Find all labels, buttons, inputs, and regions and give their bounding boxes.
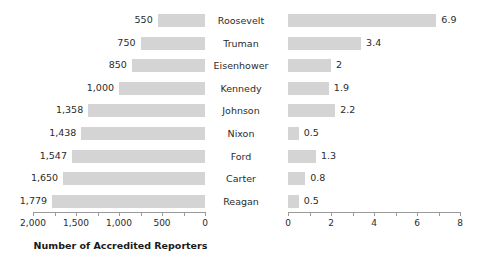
axis-tick-label: 4	[371, 218, 377, 228]
axis-tick	[205, 212, 206, 216]
bar-value-label: 550	[135, 13, 153, 26]
bar: 1,358	[88, 104, 205, 117]
bar-value-label: 1,547	[40, 149, 67, 162]
bar: 1,779	[52, 195, 205, 208]
axis-tick-label: 2,000	[20, 218, 46, 228]
bar-row: 850	[0, 59, 205, 72]
bar-row: 1.9	[288, 82, 460, 95]
chart-panel-press-conferences: 6.93.421.92.20.51.30.80.5 02468 Average …	[241, 0, 482, 268]
axis-tick	[184, 212, 185, 216]
bar-row: 2.2	[288, 104, 460, 117]
axis-tick	[460, 212, 461, 216]
axis-tick	[353, 212, 354, 216]
bar-row: 0.8	[288, 172, 460, 185]
bar-value-label: 1,438	[49, 126, 76, 139]
axis-tick	[55, 212, 56, 216]
bar-row: 1,779	[0, 195, 205, 208]
bar-value-label: 0.5	[304, 194, 319, 207]
bar-value-label: 1,779	[20, 194, 47, 207]
bar-row: 3.4	[288, 37, 460, 50]
axis-tick-label: 2	[328, 218, 334, 228]
axis-tick-label: 0	[202, 218, 208, 228]
axis-tick	[98, 212, 99, 216]
bar-row: 1,650	[0, 172, 205, 185]
bar: 6.9	[288, 14, 436, 27]
x-axis-right: 02468	[288, 212, 460, 213]
axis-tick-label: 500	[153, 218, 170, 228]
bar: 0.5	[288, 127, 299, 140]
bar: 1,000	[119, 82, 205, 95]
bar-row: 1,547	[0, 150, 205, 163]
bar-value-label: 0.8	[310, 171, 325, 184]
bar-row: 1,358	[0, 104, 205, 117]
bar-value-label: 6.9	[441, 13, 456, 26]
axis-tick-label: 1,500	[63, 218, 89, 228]
bar: 850	[132, 59, 205, 72]
bar-row: 0.5	[288, 195, 460, 208]
bar-row: 750	[0, 37, 205, 50]
bar-row: 0.5	[288, 127, 460, 140]
axis-tick	[331, 212, 332, 216]
bar-row: 1,000	[0, 82, 205, 95]
axis-tick	[439, 212, 440, 216]
axis-tick-label: 6	[414, 218, 420, 228]
axis-tick-label: 0	[285, 218, 291, 228]
bar-rows-right: 6.93.421.92.20.51.30.80.5	[241, 0, 482, 212]
axis-tick	[162, 212, 163, 216]
bar: 0.8	[288, 172, 305, 185]
bar-value-label: 0.5	[304, 126, 319, 139]
bar-value-label: 1,000	[87, 81, 114, 94]
axis-tick	[119, 212, 120, 216]
bar-row: 6.9	[288, 14, 460, 27]
bar: 3.4	[288, 37, 361, 50]
axis-tick	[374, 212, 375, 216]
bar-value-label: 2.2	[340, 103, 355, 116]
bar-row: 550	[0, 14, 205, 27]
bar-value-label: 3.4	[366, 36, 381, 49]
bar: 1,438	[81, 127, 205, 140]
bar-row: 1,438	[0, 127, 205, 140]
axis-tick-label: 8	[457, 218, 463, 228]
axis-tick	[76, 212, 77, 216]
bar: 1,547	[72, 150, 205, 163]
x-axis-left: 2,0001,5001,0005000	[33, 212, 205, 213]
bar-value-label: 1,650	[31, 171, 58, 184]
bar-row: 2	[288, 59, 460, 72]
bar: 550	[158, 14, 205, 27]
bar: 1,650	[63, 172, 205, 185]
axis-tick	[288, 212, 289, 216]
axis-title-left: Number of Accredited Reporters	[8, 240, 233, 252]
bar-value-label: 1.9	[334, 81, 349, 94]
bar: 0.5	[288, 195, 299, 208]
bar-value-label: 1.3	[321, 149, 336, 162]
bar-value-label: 2	[336, 58, 342, 71]
axis-tick-label: 1,000	[106, 218, 132, 228]
bar-value-label: 1,358	[56, 103, 83, 116]
bar: 750	[141, 37, 206, 50]
bar: 1.9	[288, 82, 329, 95]
axis-tick	[396, 212, 397, 216]
axis-tick	[33, 212, 34, 216]
bar: 2	[288, 59, 331, 72]
bar-value-label: 750	[117, 36, 135, 49]
bar-row: 1.3	[288, 150, 460, 163]
chart-figure: 5507508501,0001,3581,4381,5471,6501,779 …	[0, 0, 482, 268]
axis-tick	[417, 212, 418, 216]
bar: 2.2	[288, 104, 335, 117]
bar-value-label: 850	[109, 58, 127, 71]
axis-tick	[310, 212, 311, 216]
axis-tick	[141, 212, 142, 216]
bar: 1.3	[288, 150, 316, 163]
